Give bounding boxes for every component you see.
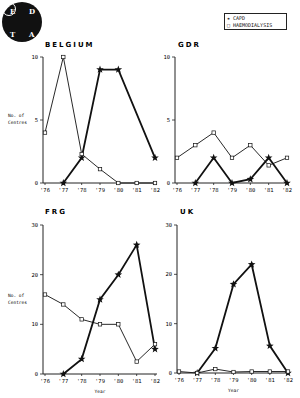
x-tick-label: '77	[192, 377, 202, 383]
x-tick-label: '79	[95, 378, 105, 384]
y-tick-label: 5	[167, 117, 170, 123]
square-marker-icon	[153, 343, 156, 346]
square-marker-icon	[43, 131, 46, 134]
square-marker-icon	[195, 371, 198, 374]
square-marker-icon	[249, 144, 252, 147]
square-marker-icon	[98, 323, 101, 326]
square-marker-icon	[80, 152, 83, 155]
x-tick-label: '79	[95, 187, 105, 193]
x-tick-label: '80	[245, 187, 255, 193]
x-tick-label: '81	[132, 187, 142, 193]
star-marker-icon	[266, 342, 274, 349]
square-marker-icon	[153, 181, 156, 184]
x-tick-label: '82	[150, 187, 160, 193]
chart-title: GDR	[178, 41, 201, 49]
x-tick-label: '79	[227, 187, 237, 193]
square-marker-icon	[194, 144, 197, 147]
capd-line	[63, 70, 155, 183]
y-tick-label: 10	[31, 54, 38, 60]
x-tick-label: '78	[77, 187, 87, 193]
capd-line	[197, 264, 288, 373]
y-tick-label: 10	[163, 54, 170, 60]
square-marker-icon	[135, 360, 138, 363]
square-marker-icon	[43, 293, 46, 296]
square-marker-icon	[268, 370, 271, 373]
y-tick-label: 0	[35, 371, 38, 377]
y-tick-label: 10	[31, 321, 38, 327]
square-marker-icon	[62, 55, 65, 58]
square-marker-icon	[250, 370, 253, 373]
chart-title: UK	[180, 208, 195, 216]
x-tick-label: '76	[40, 187, 50, 193]
square-marker-icon	[212, 131, 215, 134]
y-tick-label: 0	[167, 180, 170, 186]
x-tick-label: '79	[229, 377, 239, 383]
y-axis-label: Centres	[8, 120, 27, 125]
chart-title: BELGIUM	[45, 41, 95, 49]
x-tick-label: '82	[283, 377, 293, 383]
x-tick-label: '81	[264, 187, 274, 193]
square-marker-icon	[285, 156, 288, 159]
chart-title: FRG	[45, 208, 67, 216]
y-tick-label: 30	[165, 222, 172, 228]
square-marker-icon	[62, 303, 65, 306]
x-tick-label: '76	[172, 187, 182, 193]
y-axis-label: Centres	[8, 300, 27, 305]
x-tick-label: '82	[150, 378, 160, 384]
square-marker-icon	[177, 370, 180, 373]
y-tick-label: 20	[31, 272, 38, 278]
y-tick-label: 10	[165, 321, 172, 327]
star-marker-icon	[151, 154, 159, 161]
square-marker-icon	[135, 181, 138, 184]
y-tick-label: 5	[35, 117, 38, 123]
y-tick-label: 30	[31, 222, 38, 228]
x-tick-label: '76	[40, 378, 50, 384]
x-axis-label: Year	[228, 388, 239, 393]
square-marker-icon	[117, 323, 120, 326]
x-tick-label: '81	[132, 378, 142, 384]
x-tick-label: '77	[58, 187, 68, 193]
x-tick-label: '78	[209, 187, 219, 193]
x-tick-label: '82	[282, 187, 292, 193]
x-tick-label: '78	[210, 377, 220, 383]
x-tick-label: '80	[113, 378, 123, 384]
x-tick-label: '80	[247, 377, 257, 383]
square-marker-icon	[117, 181, 120, 184]
square-marker-icon	[286, 370, 289, 373]
y-axis-label: No. of	[8, 113, 25, 118]
x-tick-label: '81	[265, 377, 275, 383]
square-marker-icon	[175, 156, 178, 159]
x-tick-label: '80	[113, 187, 123, 193]
x-axis-label: Year	[95, 389, 106, 394]
square-marker-icon	[267, 164, 270, 167]
y-tick-label: 0	[35, 180, 38, 186]
x-tick-label: '77	[190, 187, 200, 193]
y-axis-label: No. of	[8, 293, 25, 298]
capd-line	[63, 245, 155, 374]
square-marker-icon	[232, 370, 235, 373]
square-marker-icon	[230, 156, 233, 159]
square-marker-icon	[80, 318, 83, 321]
x-tick-label: '76	[174, 377, 184, 383]
y-tick-label: 20	[165, 271, 172, 277]
x-tick-label: '78	[77, 378, 87, 384]
x-tick-label: '77	[58, 378, 68, 384]
square-marker-icon	[98, 167, 101, 170]
capd-line	[195, 158, 287, 183]
square-marker-icon	[214, 367, 217, 370]
y-tick-label: 0	[169, 370, 172, 376]
charts-canvas: BELGIUM0510'76'77'78'79'80'81'82No. ofCe…	[0, 0, 300, 398]
